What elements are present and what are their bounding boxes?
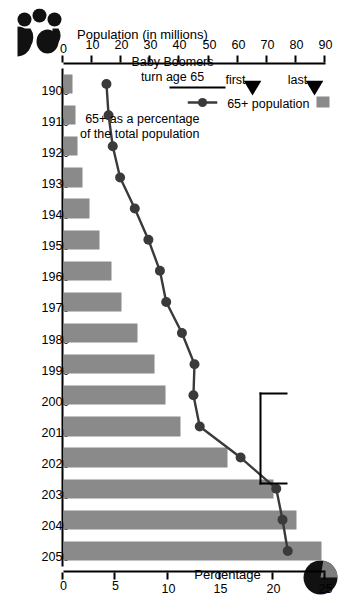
percentage-tick-label: 0 xyxy=(60,579,67,592)
population-tick xyxy=(90,55,92,62)
population-tick xyxy=(294,55,296,62)
percentage-tick xyxy=(271,572,273,579)
baby-boomers-label-2: turn age 65 xyxy=(140,69,203,83)
legend-bar-label: 65+ population xyxy=(227,96,309,110)
line-point-2050 xyxy=(282,545,292,555)
population-tick xyxy=(323,55,325,62)
percentage-tick-label: 10 xyxy=(161,583,175,596)
percentage-tick-label: 25 xyxy=(318,583,332,596)
line-point-1920 xyxy=(107,141,117,151)
percentage-tick xyxy=(166,572,168,579)
line-point-1990 xyxy=(189,359,199,369)
baby-boomers-leader-line xyxy=(169,86,225,88)
baby-boomers-bracket xyxy=(259,392,287,484)
baby-boomers-label-1: Baby Boomers xyxy=(131,54,213,68)
line-point-2010 xyxy=(194,421,204,431)
percentage-axis-title: Percentage xyxy=(194,566,261,581)
legend-line-label-1: 65+ as a percentage xyxy=(85,111,199,125)
percentage-tick-label: 15 xyxy=(213,583,227,596)
legend-bar-swatch xyxy=(316,96,329,107)
population-tick xyxy=(61,55,63,62)
line-series-65plus-percentage xyxy=(63,68,325,566)
line-point-1950 xyxy=(143,234,153,244)
legend-line-symbol xyxy=(187,94,217,110)
people-group-icon xyxy=(15,8,63,60)
percentage-tick-label: 20 xyxy=(266,583,280,596)
legend: 65+ population 65+ as a percentage of th… xyxy=(328,96,329,97)
line-point-1960 xyxy=(154,265,164,275)
line-point-2040 xyxy=(277,514,287,524)
population-tick xyxy=(236,55,238,62)
last-label: last xyxy=(287,72,306,86)
population-tick xyxy=(119,55,121,62)
population-tick-label: 70 xyxy=(260,39,274,52)
line-point-1940 xyxy=(129,203,139,213)
line-point-1980 xyxy=(176,328,186,338)
legend-line-label-2: of the total population xyxy=(79,126,199,140)
percentage-tick-label: 5 xyxy=(112,579,119,592)
chart-figure: 0102030405060708090 0510152025 190019101… xyxy=(0,0,347,609)
population-axis-title: Population (in millions) xyxy=(77,26,208,41)
line-point-1970 xyxy=(161,296,171,306)
line-point-2000 xyxy=(188,390,198,400)
plot-area: 0102030405060708090 0510152025 190019101… xyxy=(63,68,325,566)
last-pointer-arrow xyxy=(305,80,323,96)
line-point-1930 xyxy=(115,172,125,182)
population-tick-label: 80 xyxy=(289,39,303,52)
first-label: first xyxy=(225,72,245,86)
population-tick-label: 90 xyxy=(318,39,332,52)
chart-stage: 0102030405060708090 0510152025 190019101… xyxy=(0,0,347,609)
population-tick xyxy=(265,55,267,62)
population-tick-label: 60 xyxy=(231,39,245,52)
population-tick-label: 0 xyxy=(60,42,67,55)
percentage-tick xyxy=(323,572,325,579)
line-point-1900 xyxy=(101,79,111,89)
first-pointer-arrow xyxy=(243,80,261,96)
